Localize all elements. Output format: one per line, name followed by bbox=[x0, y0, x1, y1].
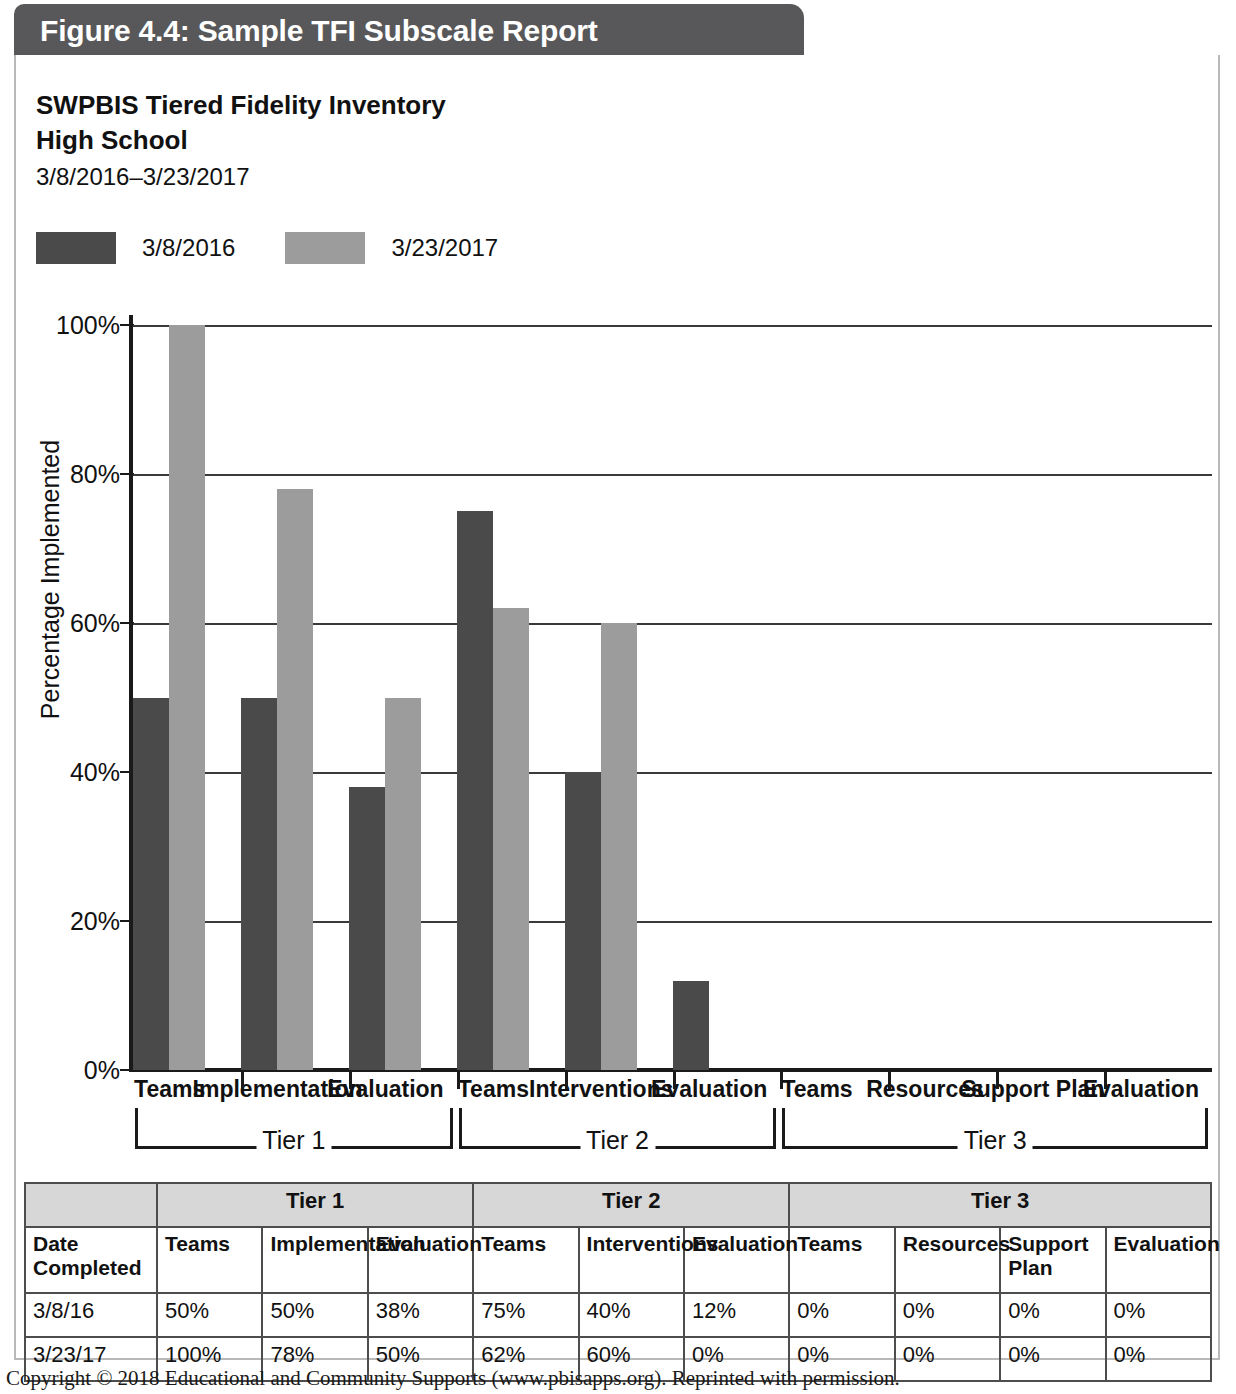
table-column-header-row: Date Completed Teams Implementation Eval… bbox=[25, 1227, 1211, 1293]
legend-label-series2: 3/23/2017 bbox=[391, 234, 498, 262]
col-t3-teams: Teams bbox=[789, 1227, 894, 1293]
table-tier-header-row: Tier 1 Tier 2 Tier 3 bbox=[25, 1183, 1211, 1227]
cell-date-0: 3/8/16 bbox=[25, 1293, 157, 1337]
cell-r0-c1: 50% bbox=[262, 1293, 367, 1337]
col-t2-teams: Teams bbox=[473, 1227, 578, 1293]
report-subtitle: High School bbox=[36, 123, 446, 158]
col-t1-evaluation: Evaluation bbox=[368, 1227, 473, 1293]
cell-r0-c5: 12% bbox=[684, 1293, 789, 1337]
cell-r1-c9: 0% bbox=[1106, 1337, 1211, 1381]
col-t3-support-plan: Support Plan bbox=[1000, 1227, 1105, 1293]
col-date-completed: Date Completed bbox=[25, 1227, 157, 1293]
table-head: Tier 1 Tier 2 Tier 3 Date Completed Team… bbox=[25, 1183, 1211, 1293]
col-t1-implementation: Implementation bbox=[262, 1227, 367, 1293]
col-t3-evaluation: Evaluation bbox=[1106, 1227, 1211, 1293]
tier-header-tier2: Tier 2 bbox=[473, 1183, 789, 1227]
cell-r0-c7: 0% bbox=[895, 1293, 1000, 1337]
title-block: SWPBIS Tiered Fidelity Inventory High Sc… bbox=[36, 88, 446, 194]
figure-header-bar: Figure 4.4: Sample TFI Subscale Report bbox=[14, 4, 804, 58]
cell-r0-c4: 40% bbox=[579, 1293, 684, 1337]
col-t2-interventions: Interventions bbox=[579, 1227, 684, 1293]
report-title: SWPBIS Tiered Fidelity Inventory bbox=[36, 88, 446, 123]
chart-legend: 3/8/2016 3/23/2017 bbox=[36, 232, 498, 264]
tier-header-tier3: Tier 3 bbox=[789, 1183, 1211, 1227]
col-t2-evaluation: Evaluation bbox=[684, 1227, 789, 1293]
legend-item-series2: 3/23/2017 bbox=[285, 232, 498, 264]
legend-item-series1: 3/8/2016 bbox=[36, 232, 235, 264]
cell-r0-c0: 50% bbox=[157, 1293, 262, 1337]
tier-header-blank bbox=[25, 1183, 157, 1227]
tier-header-tier1: Tier 1 bbox=[157, 1183, 473, 1227]
cell-r0-c9: 0% bbox=[1106, 1293, 1211, 1337]
legend-swatch-series1 bbox=[36, 232, 116, 264]
col-t3-resources: Resources bbox=[895, 1227, 1000, 1293]
cell-r1-c7: 0% bbox=[895, 1337, 1000, 1381]
cell-r0-c3: 75% bbox=[473, 1293, 578, 1337]
cell-r0-c2: 38% bbox=[368, 1293, 473, 1337]
cell-r0-c8: 0% bbox=[1000, 1293, 1105, 1337]
legend-swatch-series2 bbox=[285, 232, 365, 264]
figure-header-title: Figure 4.4: Sample TFI Subscale Report bbox=[40, 14, 598, 48]
copyright-notice: Copyright © 2018 Educational and Communi… bbox=[6, 1366, 900, 1391]
report-date-range: 3/8/2016–3/23/2017 bbox=[36, 160, 446, 194]
cell-r1-c8: 0% bbox=[1000, 1337, 1105, 1381]
legend-label-series1: 3/8/2016 bbox=[142, 234, 235, 262]
col-t1-teams: Teams bbox=[157, 1227, 262, 1293]
tfi-subscale-table: Tier 1 Tier 2 Tier 3 Date Completed Team… bbox=[24, 1182, 1212, 1382]
cell-r0-c6: 0% bbox=[789, 1293, 894, 1337]
table-row: 3/8/1650%50%38%75%40%12%0%0%0%0% bbox=[25, 1293, 1211, 1337]
